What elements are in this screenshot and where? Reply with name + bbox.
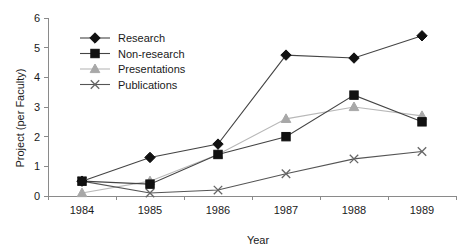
data-point [146, 180, 154, 188]
series-line [82, 152, 422, 194]
legend-item-research: Research [80, 32, 165, 44]
x-axis-title: Year [247, 234, 270, 246]
data-point [417, 31, 427, 41]
x-tick-label: 1984 [70, 204, 94, 216]
data-point [214, 150, 222, 158]
y-tick-label: 0 [34, 190, 40, 202]
chart-figure: 0123456 198419851986198719881989 Researc… [0, 0, 473, 252]
legend-label: Presentations [118, 63, 186, 75]
data-point [282, 132, 290, 140]
chart-legend: ResearchNon-researchPresentationsPublica… [80, 32, 186, 91]
data-point [282, 170, 290, 178]
legend-label: Research [118, 32, 165, 44]
legend-item-presentations: Presentations [80, 63, 186, 75]
data-point [349, 53, 359, 63]
legend-label: Publications [118, 79, 178, 91]
x-axis-ticks: 198419851986198719881989 [48, 196, 456, 216]
y-tick-label: 3 [34, 101, 40, 113]
x-tick-label: 1989 [410, 204, 434, 216]
y-axis-title: Project (per Faculty) [14, 68, 26, 167]
x-tick-label: 1988 [342, 204, 366, 216]
data-point [418, 118, 426, 126]
series-line [82, 107, 422, 193]
legend-marker [90, 64, 100, 73]
data-point [350, 91, 358, 99]
y-tick-label: 6 [34, 12, 40, 24]
x-tick-label: 1986 [206, 204, 230, 216]
series-non-research [78, 91, 426, 188]
series-line [82, 95, 422, 184]
y-tick-label: 5 [34, 42, 40, 54]
x-tick-label: 1985 [138, 204, 162, 216]
data-point [145, 152, 155, 162]
y-tick-label: 4 [34, 71, 40, 83]
line-chart: 0123456 198419851986198719881989 Researc… [0, 0, 473, 252]
data-point [349, 102, 359, 111]
data-point [213, 139, 223, 149]
y-tick-label: 1 [34, 160, 40, 172]
legend-label: Non-research [118, 48, 185, 60]
legend-marker [91, 49, 99, 57]
series-publications [78, 147, 426, 197]
y-tick-label: 2 [34, 131, 40, 143]
y-axis-ticks: 0123456 [34, 12, 48, 202]
x-tick-label: 1987 [274, 204, 298, 216]
legend-marker [90, 33, 100, 43]
legend-item-publications: Publications [80, 79, 178, 91]
data-point [281, 50, 291, 60]
legend-item-non-research: Non-research [80, 48, 185, 60]
